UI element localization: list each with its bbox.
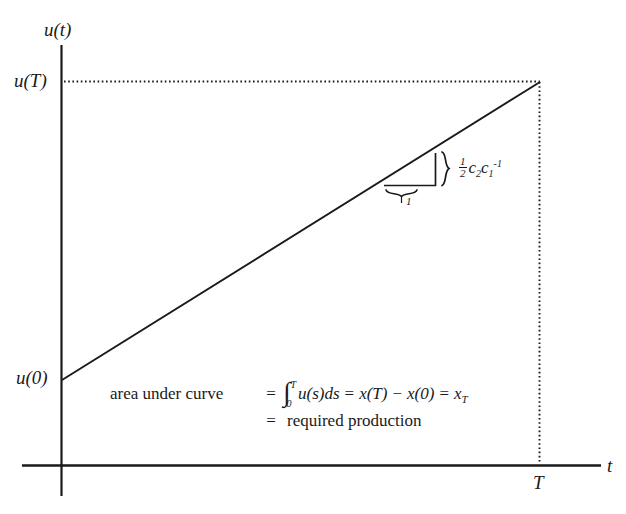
diagram-canvas [0, 0, 626, 514]
equation-equals-1: = [260, 384, 282, 404]
equation-equals-3: = [439, 384, 449, 404]
rhs-term-x-sub-T: xT [454, 384, 468, 404]
equation-row-production: = required production [110, 407, 468, 434]
equation-lead-text: area under curve [110, 384, 260, 404]
rhs-term-x0: x(0) [407, 384, 434, 404]
curve-u-of-t [62, 82, 540, 380]
integral-upper-limit: T [290, 379, 296, 390]
c1-subscript: 1 [489, 168, 494, 179]
fraction-numerator: 1 [459, 156, 467, 167]
c1-superscript: -1 [494, 158, 502, 169]
integral-lower-limit: 0 [286, 398, 292, 409]
y-tick-label-uT: u(T) [14, 71, 47, 90]
equation-equals-2: = [345, 384, 355, 404]
slope-fraction-one-half: 1 2 [459, 156, 467, 179]
equation-block: area under curve = ∫ T 0 u(s)ds = x(T) −… [110, 380, 468, 434]
x-axis-label: t [607, 456, 612, 475]
equation-minus-sign: − [392, 384, 402, 404]
slope-term-c2: c2 [469, 159, 482, 176]
c2-base: c [469, 158, 477, 177]
rhs-term-xT: x(T) [359, 384, 387, 404]
c1-base: c [481, 158, 489, 177]
slope-rise-label: 1 2 c2 c1-1 [459, 156, 502, 179]
slope-rise-brace [442, 152, 449, 186]
xT-subscript: T [462, 393, 468, 405]
utility-rate-diagram: u(t) u(T) u(0) T t 1 1 2 c2 c1-1 area un… [0, 0, 626, 514]
equation-required-production-text: required production [287, 411, 422, 431]
x-tick-label-T: T [533, 473, 544, 492]
xT-base: x [454, 384, 462, 403]
slope-term-c1-inverse: c1-1 [481, 159, 502, 176]
integrand: u(s)ds [298, 384, 340, 404]
equation-equals-4: = [260, 411, 282, 431]
slope-run-brace [386, 190, 417, 197]
fraction-denominator: 2 [459, 168, 467, 179]
integral-expression: ∫ T 0 [283, 382, 295, 406]
y-axis-label: u(t) [44, 20, 71, 39]
y-tick-label-u0: u(0) [16, 368, 48, 387]
equation-row-area: area under curve = ∫ T 0 u(s)ds = x(T) −… [110, 380, 468, 407]
slope-run-label: 1 [406, 196, 412, 207]
